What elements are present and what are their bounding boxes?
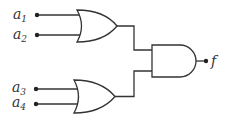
- terminal-a2: [35, 33, 39, 37]
- label-a2: a2: [13, 26, 27, 44]
- terminal-a1: [35, 13, 39, 17]
- terminal-f: [204, 59, 208, 63]
- or-gate-2: [74, 80, 115, 113]
- terminal-a4: [34, 102, 38, 106]
- wire-or1-to-and: [117, 26, 152, 50]
- and-gate: [152, 45, 196, 77]
- label-a1: a1: [13, 6, 27, 24]
- wire-or2-to-and: [115, 71, 152, 97]
- or-gate-1: [77, 10, 117, 42]
- terminal-a3: [34, 87, 38, 91]
- label-output-f: f: [210, 53, 219, 69]
- logic-circuit-diagram: a1 a2 a3 a4 f: [0, 0, 232, 124]
